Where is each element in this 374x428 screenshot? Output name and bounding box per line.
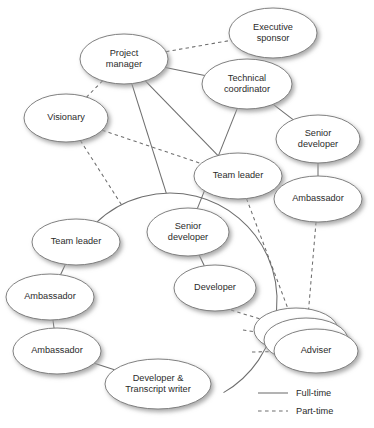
- node-label: Team leader: [51, 236, 102, 246]
- node-label: Visionary: [47, 112, 85, 122]
- node-label: Adviser: [301, 345, 332, 355]
- node-team_leader_l[interactable]: Team leader: [32, 219, 120, 265]
- edge-senior_dev_c-to-developer: [199, 255, 204, 266]
- node-label: Technical: [228, 73, 266, 83]
- edge-ambassador_r-to-adviser_back1: [308, 222, 316, 318]
- node-label: Project: [110, 48, 139, 58]
- node-exec_sponsor[interactable]: Executivesponsor: [229, 8, 317, 58]
- edge-visionary-to-ring_topleft: [80, 141, 121, 205]
- node-label: Transcript writer: [125, 384, 191, 394]
- node-label: Developer &: [133, 373, 184, 383]
- node-label: Ambassador: [24, 291, 76, 301]
- node-label: Executive: [253, 22, 293, 32]
- node-label: sponsor: [257, 33, 290, 43]
- node-label: manager: [106, 59, 142, 69]
- node-ambassador_l1[interactable]: Ambassador: [6, 274, 94, 320]
- node-label: developer: [168, 232, 208, 242]
- node-group: ExecutivesponsorProjectmanagerTechnicalc…: [6, 8, 362, 409]
- diagram-canvas: ExecutivesponsorProjectmanagerTechnicalc…: [0, 0, 374, 428]
- node-label: developer: [298, 139, 338, 149]
- edge-ambassador_l2-to-dev_transcript: [94, 363, 114, 370]
- edge-tech_coord-to-senior_dev_r: [273, 104, 293, 119]
- edge-ambassador_l1-to-ambassador_l2: [53, 320, 54, 328]
- node-adviser[interactable]: Adviser: [274, 329, 358, 373]
- node-project_manager[interactable]: Projectmanager: [80, 34, 168, 84]
- node-label: Senior: [175, 221, 202, 231]
- node-ambassador_r[interactable]: Ambassador: [274, 176, 362, 222]
- legend: Full-time Part-time: [258, 388, 333, 416]
- edge-project_manager-to-visionary: [87, 81, 103, 97]
- node-dev_transcript[interactable]: Developer &Transcript writer: [105, 359, 211, 409]
- node-label: Senior: [305, 128, 332, 138]
- edge-project_manager-to-ring_top: [132, 84, 167, 193]
- edge-team_leader_l-to-ambassador_l1: [61, 264, 66, 274]
- node-label: Ambassador: [292, 193, 344, 203]
- node-tech_coord[interactable]: Technicalcoordinator: [202, 59, 292, 109]
- node-team_leader_c[interactable]: Team leader: [194, 153, 282, 199]
- node-senior_dev_r[interactable]: Seniordeveloper: [276, 115, 360, 163]
- edge-project_manager-to-tech_coord: [165, 67, 204, 75]
- network-diagram: ExecutivesponsorProjectmanagerTechnicalc…: [0, 0, 374, 428]
- node-label: coordinator: [224, 84, 270, 94]
- edge-ring_right_1-to-adviser_back2: [231, 310, 260, 319]
- node-developer[interactable]: Developer: [174, 265, 256, 311]
- node-label: Team leader: [213, 170, 264, 180]
- node-label: Developer: [194, 282, 236, 292]
- node-ambassador_l2[interactable]: Ambassador: [13, 328, 101, 374]
- edge-project_manager-to-exec_sponsor: [166, 40, 231, 51]
- legend-label-full-time: Full-time: [296, 388, 331, 398]
- node-senior_dev_c[interactable]: Seniordeveloper: [147, 208, 229, 256]
- node-visionary[interactable]: Visionary: [24, 94, 108, 142]
- legend-label-part-time: Part-time: [296, 406, 333, 416]
- node-label: Ambassador: [31, 345, 83, 355]
